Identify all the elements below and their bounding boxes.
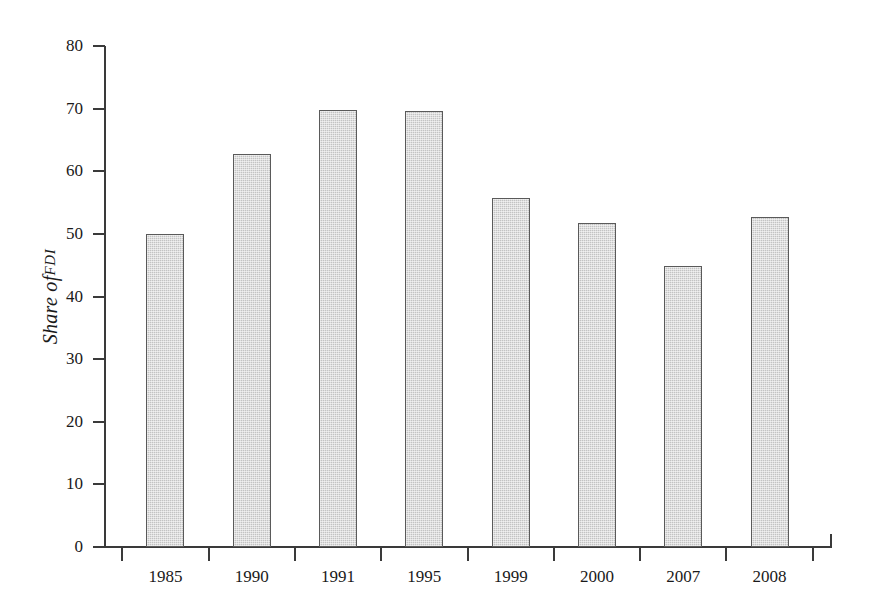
bar-2007 [664, 266, 702, 547]
x-axis-end-cap [830, 534, 832, 548]
x-axis-tick-label: 2000 [552, 568, 642, 585]
y-axis-title-smallcaps: FDI [42, 249, 59, 276]
y-axis-title-main: Share of [39, 275, 62, 344]
y-axis-tick [93, 358, 105, 360]
y-axis-tick [93, 546, 105, 548]
y-axis-tick [93, 45, 105, 47]
y-axis-tick-label: 60 [43, 162, 83, 179]
y-axis-tick-label: 10 [43, 475, 83, 492]
x-axis-tick [812, 548, 814, 561]
x-axis-tick-label: 2008 [725, 568, 815, 585]
y-axis-tick [93, 421, 105, 423]
y-axis-tick-label: 70 [43, 100, 83, 117]
x-axis-tick-label: 1985 [120, 568, 210, 585]
x-axis-tick-label: 1990 [207, 568, 297, 585]
x-axis-tick-label: 1991 [293, 568, 383, 585]
x-axis-tick [467, 548, 469, 561]
x-axis-tick-label: 1999 [466, 568, 556, 585]
y-axis-tick [93, 170, 105, 172]
y-axis-tick [93, 296, 105, 298]
y-axis-tick-label: 30 [43, 350, 83, 367]
x-axis-tick [208, 548, 210, 561]
y-axis-tick-label: 0 [43, 538, 83, 555]
x-axis-tick [639, 548, 641, 561]
y-axis-tick-label: 50 [43, 225, 83, 242]
bar-chart-figure: Share of FDI 010203040506070801985199019… [0, 0, 873, 615]
x-axis-tick [121, 548, 123, 561]
y-axis-tick [93, 483, 105, 485]
bar-1990 [233, 154, 271, 547]
y-axis-tick-label: 20 [43, 413, 83, 430]
x-axis-tick [294, 548, 296, 561]
y-axis-tick [93, 108, 105, 110]
bar-2008 [751, 217, 789, 547]
bar-1995 [405, 111, 443, 547]
y-axis-tick [93, 233, 105, 235]
x-axis-tick [725, 548, 727, 561]
bar-1999 [492, 198, 530, 547]
x-axis-tick [380, 548, 382, 561]
x-axis-tick-label: 1995 [379, 568, 469, 585]
y-axis-tick-label: 40 [43, 288, 83, 305]
x-axis-tick-label: 2007 [638, 568, 728, 585]
bar-1985 [146, 234, 184, 547]
bar-2000 [578, 223, 616, 547]
y-axis-tick-label: 80 [43, 37, 83, 54]
x-axis-tick [553, 548, 555, 561]
bar-1991 [319, 110, 357, 547]
